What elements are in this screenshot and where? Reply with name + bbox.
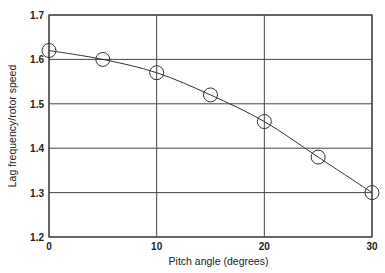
x-tick-label: 0 xyxy=(46,241,52,252)
y-tick-label: 1.3 xyxy=(30,188,44,199)
x-tick-label: 10 xyxy=(151,241,163,252)
x-axis-label: Pitch angle (degrees) xyxy=(169,255,269,267)
y-axis-label: Lag frequency/rotor speed xyxy=(6,65,18,188)
x-tick-label: 20 xyxy=(259,241,271,252)
line-chart: 1.21.31.41.51.61.70102030Pitch angle (de… xyxy=(0,0,385,273)
chart-container: 1.21.31.41.51.61.70102030Pitch angle (de… xyxy=(0,0,385,273)
y-tick-label: 1.4 xyxy=(30,143,44,154)
plot-frame xyxy=(49,15,372,237)
y-tick-label: 1.7 xyxy=(30,10,44,21)
y-tick-label: 1.6 xyxy=(30,54,44,65)
x-tick-label: 30 xyxy=(366,241,378,252)
y-tick-label: 1.2 xyxy=(30,232,44,243)
series-line xyxy=(49,51,372,193)
y-tick-label: 1.5 xyxy=(30,99,44,110)
